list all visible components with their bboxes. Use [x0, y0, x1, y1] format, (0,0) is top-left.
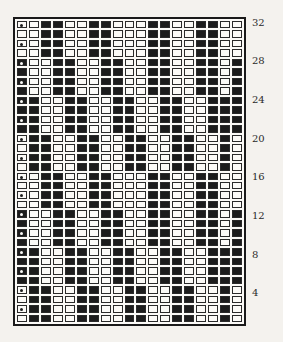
grid-cell [113, 315, 123, 322]
grid-cell [101, 277, 111, 284]
grid-cell [172, 30, 182, 37]
grid-cell [160, 49, 170, 56]
grid-cell [65, 87, 75, 94]
grid-cell [220, 267, 230, 274]
grid-cell [172, 182, 182, 189]
grid-cell [113, 59, 123, 66]
grid-cell [53, 220, 63, 227]
grid-cell [184, 173, 194, 180]
grid-cell [101, 239, 111, 246]
grid-cell [232, 296, 242, 303]
row-label: 12 [252, 209, 265, 220]
row-label: 28 [252, 55, 265, 66]
grid-cell [17, 78, 27, 85]
grid-cell [136, 106, 146, 113]
grid-cell [101, 296, 111, 303]
grid-cell [77, 135, 87, 142]
grid-cell [232, 97, 242, 104]
grid-cell [208, 97, 218, 104]
grid-cell [41, 30, 51, 37]
grid-cell [196, 125, 206, 132]
grid-cell [53, 277, 63, 284]
grid-cell [136, 277, 146, 284]
grid-cell [101, 135, 111, 142]
grid-cell [136, 182, 146, 189]
grid-cell [184, 248, 194, 255]
grid-cell [232, 68, 242, 75]
grid-cell [101, 154, 111, 161]
grid-cell [220, 296, 230, 303]
grid-cell [232, 229, 242, 236]
grid-cell [89, 286, 99, 293]
grid-cell [65, 59, 75, 66]
grid-cell [29, 97, 39, 104]
grid-cell [125, 125, 135, 132]
grid-cell [136, 30, 146, 37]
grid-cell [136, 49, 146, 56]
grid-cell [160, 210, 170, 217]
grid-cell [196, 267, 206, 274]
grid-cell [148, 305, 158, 312]
grid-cell [29, 258, 39, 265]
grid-cell [220, 59, 230, 66]
grid-cell [160, 220, 170, 227]
grid-cell [41, 49, 51, 56]
grid-cell [148, 267, 158, 274]
grid-cell [89, 49, 99, 56]
grid-cell [29, 315, 39, 322]
grid-cell [196, 182, 206, 189]
grid-cell [77, 97, 87, 104]
grid-cell [65, 97, 75, 104]
grid-cell [29, 296, 39, 303]
grid-cell [113, 182, 123, 189]
grid-cell [65, 173, 75, 180]
grid-cell [89, 125, 99, 132]
grid-cell [113, 258, 123, 265]
grid-cell [17, 87, 27, 94]
grid-cell [41, 144, 51, 151]
grid-cell [172, 163, 182, 170]
grid-cell [125, 201, 135, 208]
grid-cell [125, 191, 135, 198]
grid-cell [220, 49, 230, 56]
grid-cell [172, 267, 182, 274]
grid-cell [208, 210, 218, 217]
grid-cell [29, 248, 39, 255]
grid-cell [65, 229, 75, 236]
grid-cell [53, 258, 63, 265]
grid-cell [17, 144, 27, 151]
grid-cell [29, 116, 39, 123]
grid-cell [148, 173, 158, 180]
grid-cell [125, 68, 135, 75]
grid-cell [17, 229, 27, 236]
grid-cell [101, 258, 111, 265]
grid-cell [53, 30, 63, 37]
row-label: 8 [252, 248, 258, 259]
grid-cell [136, 97, 146, 104]
grid-cell [220, 78, 230, 85]
grid-cell [196, 68, 206, 75]
grid-cell [53, 239, 63, 246]
grid-cell [53, 173, 63, 180]
grid-cell [160, 277, 170, 284]
grid-cell [65, 296, 75, 303]
grid-cell [208, 154, 218, 161]
grid-cell [220, 68, 230, 75]
grid-cell [148, 163, 158, 170]
grid-cell [208, 135, 218, 142]
grid-cell [65, 201, 75, 208]
grid-cell [220, 30, 230, 37]
grid-cell [53, 315, 63, 322]
grid-cell [208, 116, 218, 123]
grid-cell [208, 220, 218, 227]
grid-cell [172, 210, 182, 217]
grid-cell [113, 305, 123, 312]
grid-cell [29, 163, 39, 170]
grid-cell [89, 87, 99, 94]
grid-cell [196, 78, 206, 85]
grid-cell [220, 87, 230, 94]
grid-cell [89, 106, 99, 113]
grid-cell [196, 191, 206, 198]
grid-cell [172, 21, 182, 28]
grid-cell [196, 201, 206, 208]
